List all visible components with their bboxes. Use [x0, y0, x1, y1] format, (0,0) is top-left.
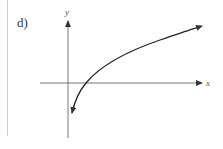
- graph: x y: [0, 0, 223, 149]
- log-curve: [86, 26, 202, 83]
- log-curve-lower: [72, 83, 86, 113]
- x-axis-label: x: [205, 78, 210, 88]
- y-axis-label: y: [64, 7, 69, 17]
